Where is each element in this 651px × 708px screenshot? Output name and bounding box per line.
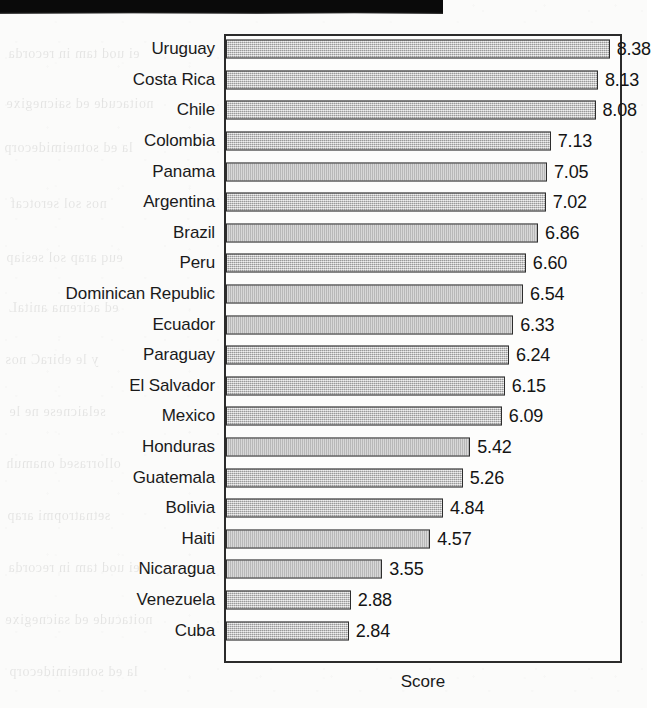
bar-with-value: 7.13 <box>226 132 592 151</box>
bar-value-label: 7.05 <box>554 161 588 182</box>
bar-row: Paraguay6.24 <box>0 340 647 371</box>
bar-value-label: 6.60 <box>533 253 567 274</box>
bar-value-label: 6.15 <box>512 375 546 396</box>
category-label: Peru <box>179 253 215 273</box>
bar-row: Costa Rica8.13 <box>0 65 647 96</box>
bar-row: Venezuela2.88 <box>0 585 647 616</box>
bar-value-label: 7.13 <box>558 131 592 152</box>
bar-value-label: 6.09 <box>509 406 543 427</box>
bar-with-value: 2.84 <box>226 621 390 640</box>
category-label: Bolivia <box>166 498 215 518</box>
bar-with-value: 8.38 <box>226 40 651 59</box>
category-label: Dominican Republic <box>66 284 215 304</box>
bar-row: Peru6.60 <box>0 248 647 279</box>
bar-value-label: 2.84 <box>356 620 390 641</box>
bar-with-value: 4.57 <box>226 529 471 548</box>
bar-value-label: 6.86 <box>545 222 579 243</box>
bar-with-value: 4.84 <box>226 499 484 518</box>
bar-value-label: 4.84 <box>450 498 484 519</box>
bar-value-label: 6.24 <box>516 345 550 366</box>
bar-value-label: 6.33 <box>520 314 554 335</box>
bar-with-value: 5.26 <box>226 468 504 487</box>
bar-value-label: 6.54 <box>530 284 564 305</box>
bar <box>226 376 505 395</box>
bar-value-label: 7.02 <box>553 192 587 213</box>
bar <box>226 285 523 304</box>
bar <box>226 438 470 457</box>
bar-row: Colombia7.13 <box>0 126 647 157</box>
category-label: El Salvador <box>129 376 215 396</box>
category-label: Brazil <box>173 223 215 243</box>
bar-with-value: 5.42 <box>226 438 512 457</box>
bar-value-label: 2.88 <box>358 589 392 610</box>
x-axis-title: Score <box>224 672 622 692</box>
bar-row: Brazil6.86 <box>0 218 647 249</box>
bar-rows: Uruguay8.38Costa Rica8.13Chile8.08Colomb… <box>0 34 647 646</box>
bar-value-label: 8.13 <box>605 69 639 90</box>
category-label: Costa Rica <box>133 70 215 90</box>
bar-with-value: 6.15 <box>226 376 546 395</box>
category-label: Nicaragua <box>138 559 215 579</box>
bar-with-value: 6.33 <box>226 315 554 334</box>
bar-row: Guatemala5.26 <box>0 462 647 493</box>
bar <box>226 254 526 273</box>
bar-row: Nicaragua3.55 <box>0 554 647 585</box>
bar-with-value: 7.02 <box>226 193 587 212</box>
bar-with-value: 6.09 <box>226 407 543 426</box>
bar-with-value: 2.88 <box>226 590 392 609</box>
bar-value-label: 5.42 <box>477 437 511 458</box>
bar-row: Ecuador6.33 <box>0 309 647 340</box>
bar <box>226 70 598 89</box>
bar-row: Chile8.08 <box>0 95 647 126</box>
bar <box>226 621 349 640</box>
category-label: Mexico <box>162 406 215 426</box>
bar-value-label: 4.57 <box>437 528 471 549</box>
bar-row: Bolivia4.84 <box>0 493 647 524</box>
bar <box>226 529 430 548</box>
category-label: Cuba <box>175 621 215 641</box>
bar-with-value: 6.24 <box>226 346 550 365</box>
bar <box>226 468 463 487</box>
bar <box>226 315 513 334</box>
bar-value-label: 8.08 <box>603 100 637 121</box>
bar-with-value: 6.54 <box>226 285 564 304</box>
bar-row: Argentina7.02 <box>0 187 647 218</box>
bar-row: Dominican Republic6.54 <box>0 279 647 310</box>
bar-row: El Salvador6.15 <box>0 371 647 402</box>
category-label: Haiti <box>181 529 215 549</box>
bar-with-value: 7.05 <box>226 162 588 181</box>
bar-row: Uruguay8.38 <box>0 34 647 65</box>
category-label: Chile <box>177 100 215 120</box>
bar-with-value: 3.55 <box>226 560 423 579</box>
bar-with-value: 8.08 <box>226 101 637 120</box>
bar <box>226 193 546 212</box>
bar <box>226 223 538 242</box>
bar <box>226 101 596 120</box>
bar <box>226 132 551 151</box>
bar-with-value: 6.86 <box>226 223 579 242</box>
category-label: Colombia <box>144 131 215 151</box>
category-label: Argentina <box>143 192 215 212</box>
bar-row: Mexico6.09 <box>0 401 647 432</box>
bar-with-value: 6.60 <box>226 254 567 273</box>
category-label: Honduras <box>142 437 215 457</box>
bar-row: Cuba2.84 <box>0 615 647 646</box>
bar-row: Panama7.05 <box>0 156 647 187</box>
bar-value-label: 8.38 <box>617 39 651 60</box>
bar-row: Honduras5.42 <box>0 432 647 463</box>
bar <box>226 590 351 609</box>
category-label: Uruguay <box>151 39 215 59</box>
bar <box>226 407 502 426</box>
category-label: Guatemala <box>133 468 215 488</box>
bar <box>226 560 382 579</box>
category-label: Panama <box>152 162 215 182</box>
bar-value-label: 3.55 <box>389 559 423 580</box>
bar-value-label: 5.26 <box>470 467 504 488</box>
bar <box>226 162 547 181</box>
bar-with-value: 8.13 <box>226 70 639 89</box>
category-label: Paraguay <box>143 345 215 365</box>
bar <box>226 346 509 365</box>
bar <box>226 40 610 59</box>
